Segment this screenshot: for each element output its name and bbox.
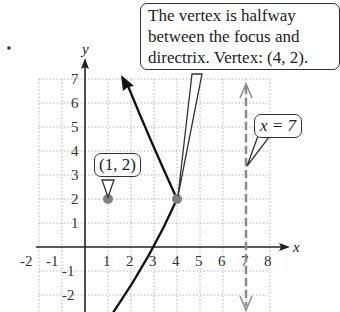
vertex-explanation-callout: The vertex is halfway between the focus … (140, 3, 340, 70)
svg-text:4: 4 (172, 253, 180, 269)
vertex-point (172, 194, 182, 204)
svg-text:4: 4 (71, 143, 79, 159)
svg-text:1: 1 (103, 253, 111, 269)
focus-callout-tail (102, 180, 114, 197)
svg-text:5: 5 (195, 253, 203, 269)
svg-text:-1: -1 (62, 263, 75, 279)
svg-text:6: 6 (218, 253, 226, 269)
svg-text:2: 2 (71, 191, 79, 207)
svg-text:7: 7 (71, 71, 79, 87)
y-axis-label: y (80, 41, 89, 57)
y-tick-labels: 7 6 5 4 3 2 1 -1 -2 (62, 71, 79, 303)
parabola-curve (108, 86, 177, 312)
svg-text:3: 3 (71, 167, 79, 183)
directrix-callout: x = 7 (254, 114, 302, 138)
x-axis-label: x (292, 239, 300, 255)
svg-text:6: 6 (71, 95, 79, 111)
svg-text:-2: -2 (20, 253, 33, 269)
svg-text:3: 3 (149, 253, 157, 269)
svg-text:-2: -2 (62, 287, 75, 303)
svg-text:-1: -1 (46, 253, 59, 269)
parabola-arrow-icon (121, 75, 134, 91)
svg-text:5: 5 (71, 119, 79, 135)
svg-text:8: 8 (264, 253, 272, 269)
bullet-dot (7, 46, 11, 50)
main-callout-tail (178, 74, 202, 196)
focus-callout: (1, 2) (94, 153, 141, 177)
svg-text:2: 2 (126, 253, 134, 269)
svg-text:1: 1 (71, 215, 79, 231)
